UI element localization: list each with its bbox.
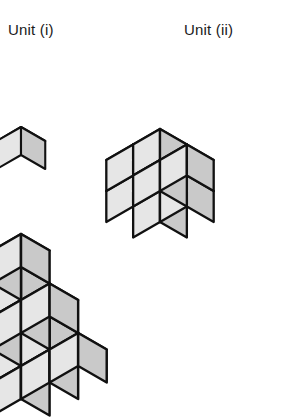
composite-staircase-diagram (0, 0, 291, 419)
composite-svg (0, 0, 291, 419)
cube-right-face (78, 333, 107, 383)
